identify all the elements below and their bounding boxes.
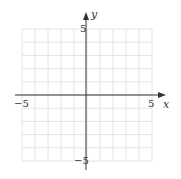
- coordinate-plane: x y −5 5 5 −5: [0, 0, 181, 179]
- x-axis-label: x: [163, 98, 170, 111]
- x-max-tick-label: 5: [148, 98, 154, 109]
- x-min-tick-label: −5: [14, 98, 29, 109]
- y-min-tick-label: −5: [74, 155, 89, 166]
- y-axis-arrow-icon: [83, 12, 89, 20]
- y-max-tick-label: 5: [80, 23, 86, 34]
- y-axis-label: y: [90, 8, 98, 21]
